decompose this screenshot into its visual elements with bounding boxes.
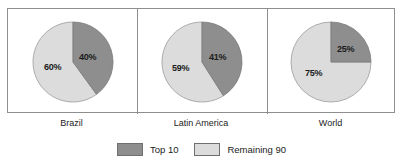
pie-chart-latin-america: 41% 59% [158,18,246,106]
pie-svg-world [287,18,375,106]
legend-label-top10: Top 10 [150,144,179,155]
panel-caption-brazil: Brazil [7,118,136,128]
pie-slice-value-remaining90-latin-america: 59% [172,63,189,73]
pie-slice-value-top10-world: 25% [337,44,354,54]
panel-caption-world: World [266,118,395,128]
legend-item-top10: Top 10 [117,143,179,156]
chart-legend: Top 10 Remaining 90 [0,143,403,156]
panel-caption-latin-america: Latin America [136,118,266,128]
pie-chart-figure: 40% 60% 41% 59% 25% 75% [0,0,403,168]
panel-divider-2 [267,9,268,114]
pie-slice-top10-world [331,22,371,62]
pie-svg-brazil [29,18,117,106]
pie-slices-world [291,22,371,102]
pie-svg-latin-america [158,18,246,106]
legend-label-remaining90: Remaining 90 [227,144,286,155]
pie-chart-world: 25% 75% [287,18,375,106]
legend-swatch-top10 [117,143,143,156]
pie-slices-latin-america [162,22,242,102]
pie-chart-brazil: 40% 60% [29,18,117,106]
panel-divider-1 [137,9,138,114]
legend-item-remaining90: Remaining 90 [194,143,286,156]
pie-slice-value-remaining90-world: 75% [305,68,322,78]
pie-slice-value-top10-brazil: 40% [79,52,96,62]
legend-swatch-remaining90 [194,143,220,156]
panels-frame: 40% 60% 41% 59% 25% 75% [7,8,395,113]
pie-slice-value-remaining90-brazil: 60% [44,62,61,72]
pie-slice-value-top10-latin-america: 41% [209,52,226,62]
